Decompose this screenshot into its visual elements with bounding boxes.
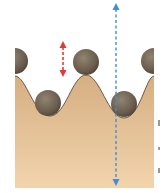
clipped-text-mark <box>158 147 160 150</box>
clipped-text-mark <box>158 168 160 173</box>
ball-left-peak-partial <box>2 48 28 74</box>
ball-center-peak <box>73 49 99 75</box>
red-double-arrow-icon <box>60 41 67 77</box>
ball-right-peak-partial <box>141 48 163 74</box>
ball-right-valley <box>111 91 137 117</box>
sand-surface <box>15 75 154 188</box>
clipped-text-mark <box>158 120 160 126</box>
ball-left-valley <box>35 90 61 116</box>
potential-well-diagram <box>0 0 163 193</box>
